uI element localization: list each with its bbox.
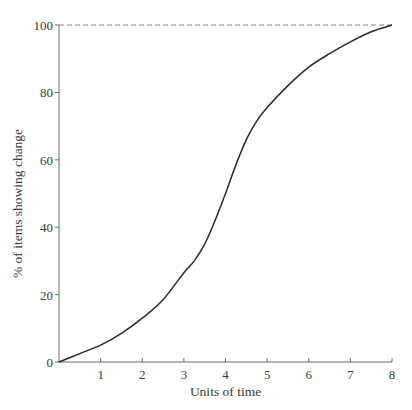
x-tick-label: 2 [139,367,146,382]
x-tick-label: 5 [264,367,271,382]
data-curve [59,25,392,362]
y-axis-title: % of items showing change [10,129,25,278]
y-tick-label: 100 [34,18,54,33]
y-tick-label: 0 [47,355,54,370]
x-axis-title: Units of time [190,384,261,399]
y-tick-label: 20 [40,288,53,303]
y-tick-label: 60 [40,153,53,168]
y-tick-label: 40 [40,220,53,235]
x-tick-label: 1 [97,367,104,382]
x-tick-label: 6 [306,367,313,382]
y-axis-ticks: 020406080100 [34,18,60,370]
y-tick-label: 80 [40,85,53,100]
x-tick-label: 4 [222,367,229,382]
x-tick-label: 3 [181,367,188,382]
x-tick-label: 7 [347,367,354,382]
x-tick-label: 8 [389,367,396,382]
chart: 020406080100 12345678 Units of time % of… [0,0,412,410]
